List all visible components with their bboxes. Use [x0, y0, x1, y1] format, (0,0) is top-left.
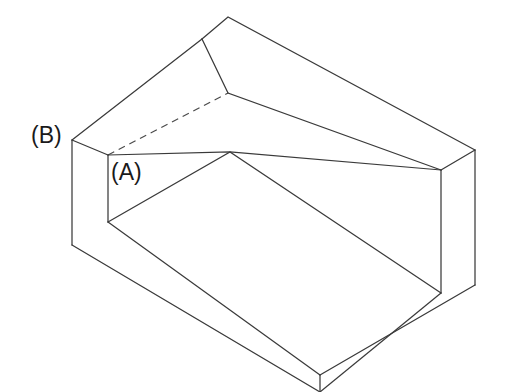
isometric-drawing-canvas: (B) (A) — [0, 0, 507, 392]
face-fills — [72, 17, 475, 392]
vertex-label-b: (B) — [31, 124, 62, 147]
vertex-label-a: (A) — [111, 161, 142, 184]
left-block-top-face — [72, 39, 228, 155]
right-outer-face — [441, 150, 475, 293]
isometric-figure — [0, 0, 507, 392]
back-rail-top-face — [202, 17, 475, 170]
